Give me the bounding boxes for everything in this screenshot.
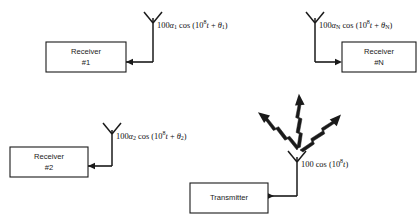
- antenna-receive-2: [103, 123, 121, 166]
- antenna-transmit: [288, 151, 306, 196]
- radio-link-diagram: Receiver #1 100α1 cos (108t + θ1) Receiv…: [0, 0, 418, 220]
- radiation-bolt-right: [300, 111, 345, 158]
- receiver-1-signal-formula: 100α1 cos (108t + θ1): [157, 19, 228, 30]
- transmitter-label: Transmitter: [210, 193, 249, 202]
- arrowhead-receiver-1: [126, 59, 133, 65]
- diagram-canvas: Receiver #1 100α1 cos (108t + θ1) Receiv…: [0, 0, 418, 220]
- radiation-bolt-center: [293, 93, 307, 148]
- receiver-n-label-line2: #N: [374, 58, 384, 67]
- receiver-n-label-line1: Receiver: [364, 47, 394, 56]
- receiver-2-label-line2: #2: [45, 163, 53, 172]
- receiver-2-group: Receiver #2 100α2 cos (108t + θ2): [10, 123, 187, 177]
- antenna-receive-1: [144, 12, 162, 62]
- receiver-1-group: Receiver #1 100α1 cos (108t + θ1): [46, 12, 228, 72]
- receiver-n-signal-formula: 100αN cos (108t + θN): [319, 19, 393, 30]
- receiver-2-signal-formula: 100α2 cos (108t + θ2): [116, 130, 187, 141]
- receiver-n-group: Receiver #N 100αN cos (108t + θN): [306, 12, 416, 72]
- transmitter-signal-formula: 100 cos (108t): [301, 158, 348, 169]
- transmitter-group: Transmitter 100 cos (108t): [190, 93, 348, 213]
- receiver-1-label-line1: Receiver: [71, 47, 101, 56]
- arrowhead-receiver-2: [88, 163, 95, 169]
- antenna-receive-n: [306, 12, 324, 62]
- arrowhead-receiver-n: [335, 59, 342, 65]
- receiver-1-label-line2: #1: [82, 58, 90, 67]
- receiver-2-label-line1: Receiver: [34, 152, 64, 161]
